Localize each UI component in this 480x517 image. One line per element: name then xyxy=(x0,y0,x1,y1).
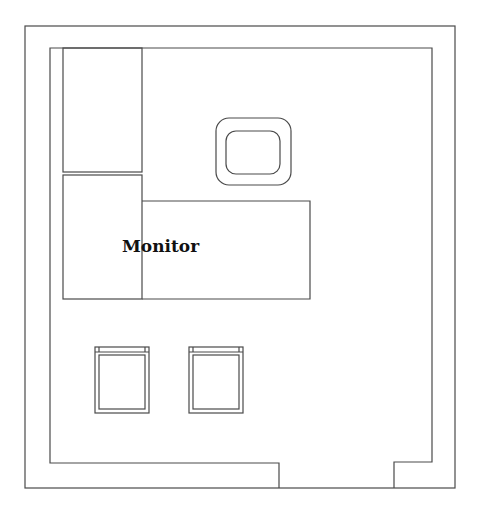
desk-label: Monitor xyxy=(122,236,200,256)
cabinet-upper xyxy=(63,48,142,172)
chair-left-seat xyxy=(99,355,145,409)
chair-right-seat xyxy=(193,355,239,409)
floor-plan-svg: Monitor xyxy=(0,0,480,517)
outer-wall xyxy=(25,26,455,488)
desk: Monitor xyxy=(122,201,310,299)
chair-right-frame xyxy=(189,347,243,413)
chair-left-frame xyxy=(95,347,149,413)
floor-plan-diagram: Monitor xyxy=(0,0,480,517)
monitor-screen-icon xyxy=(226,131,280,174)
chair-right xyxy=(189,347,243,413)
cabinet-upper-outline xyxy=(63,48,142,172)
chair-left xyxy=(95,347,149,413)
inner-wall xyxy=(50,48,432,488)
monitor xyxy=(216,118,291,185)
